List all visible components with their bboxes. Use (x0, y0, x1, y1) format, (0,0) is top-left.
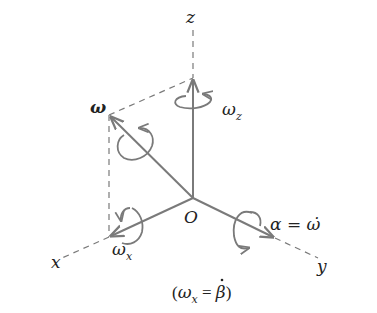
angular-velocity-diagram: z x y O ω ωz ωx α = ω̇ (ωx = β) (0, 0, 377, 313)
caption-beta-dot (221, 279, 224, 282)
y-axis-label: y (316, 256, 327, 276)
omega-z-symbol: ω (222, 99, 236, 119)
caption-eq: = (198, 283, 216, 302)
z-axis-label: z (185, 7, 196, 27)
omega-x-subscript: x (126, 250, 133, 263)
rotation-arrow-icon-omega (118, 128, 153, 160)
rotation-arrow-icon-y-top (250, 212, 261, 226)
omega-x-label: ωx (112, 239, 133, 263)
origin-label: O (184, 207, 198, 227)
caption-beta: β (215, 282, 226, 302)
rotation-arrow-icon-y (234, 212, 252, 249)
omega-z-label: ωz (222, 99, 242, 123)
omega-label: ω (90, 97, 106, 117)
omega-z-subscript: z (235, 110, 242, 123)
caption-omega: ω (178, 282, 192, 302)
omega-x-vector (111, 198, 193, 236)
caption-close: ) (226, 283, 232, 302)
x-axis-dashed (62, 237, 109, 258)
omega-x-symbol: ω (112, 239, 126, 259)
y-axis-dashed (275, 238, 318, 258)
x-axis-label: x (51, 252, 61, 272)
caption: (ωx = β) (172, 282, 231, 306)
rotation-arrow-icon-x-top (121, 208, 130, 220)
alpha-label: α = ω̇ (270, 214, 321, 234)
